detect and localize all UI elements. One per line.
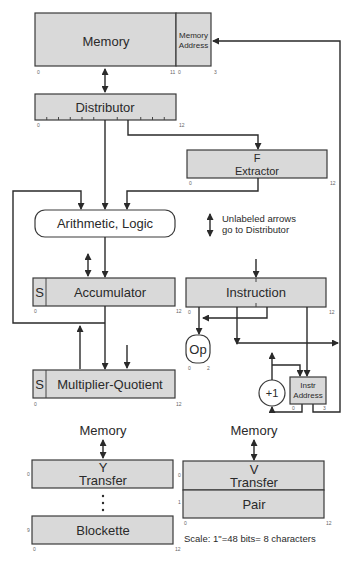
svg-text:Address: Address: [179, 41, 208, 50]
svg-text:Pair: Pair: [242, 497, 266, 512]
svg-text:Accumulator: Accumulator: [74, 285, 147, 300]
svg-text:+1: +1: [266, 387, 279, 399]
svg-text:0: 0: [189, 180, 192, 186]
incrementer-instr-address-arrow: [272, 365, 300, 376]
memory-register: Memory 0 11: [35, 13, 176, 75]
svg-text:0: 0: [178, 472, 181, 478]
svg-text:12: 12: [329, 309, 335, 315]
svg-text:0: 0: [292, 405, 295, 411]
svg-text:9: 9: [27, 527, 30, 533]
svg-text:0: 0: [184, 520, 187, 526]
svg-text:0: 0: [37, 122, 40, 128]
svg-text:12: 12: [330, 180, 336, 186]
svg-text:0: 0: [34, 401, 37, 407]
y-transfer-register: Y Transfer 0: [27, 460, 173, 488]
svg-text:Instr: Instr: [300, 381, 316, 390]
svg-text:0: 0: [178, 69, 181, 75]
svg-text:Multiplier-Quotient: Multiplier-Quotient: [57, 377, 163, 392]
svg-text:Transfer: Transfer: [79, 473, 128, 488]
svg-text:go to Distributor: go to Distributor: [222, 224, 289, 235]
svg-text:12: 12: [326, 520, 332, 526]
svg-text:Arithmetic, Logic: Arithmetic, Logic: [57, 216, 154, 231]
instr-address-register: Instr Address 0 3: [290, 377, 326, 411]
pair-register: Pair 1 0 12: [178, 490, 332, 526]
distributor-extractor-arrow: [128, 120, 258, 149]
incrementer: +1: [259, 380, 285, 406]
arithmetic-logic-unit: Arithmetic, Logic: [35, 210, 175, 237]
blockette-register: Blockette 9 0 12: [27, 516, 181, 552]
svg-text:1: 1: [178, 499, 181, 505]
svg-text:12: 12: [175, 546, 181, 552]
svg-text:Extractor: Extractor: [235, 165, 279, 177]
svg-text:Distributor: Distributor: [75, 100, 135, 115]
svg-text:F: F: [254, 152, 261, 164]
svg-text:S: S: [35, 377, 44, 392]
svg-text:Op: Op: [189, 342, 206, 357]
memory-label: Memory: [83, 34, 130, 49]
svg-text:0: 0: [37, 69, 40, 75]
distributor-register: Distributor 0 12: [35, 94, 185, 128]
accumulator-register: S Accumulator 0 12: [33, 278, 182, 314]
memory-address-register: Memory Address 0 3: [176, 13, 217, 75]
svg-text:12: 12: [179, 122, 185, 128]
scale-note: Scale: 1"=48 bits= 8 characters: [184, 533, 316, 544]
svg-text:12: 12: [176, 401, 182, 407]
computer-block-diagram: Memory 0 11 Memory Address 0 3 Distribut…: [0, 0, 350, 568]
svg-text:Address: Address: [293, 391, 322, 400]
svg-text:0: 0: [27, 471, 30, 477]
instruction-register: Instruction 0 12: [186, 278, 335, 315]
op-register: Op 0 2: [186, 335, 210, 371]
extractor-arithmetic-arrow: [127, 178, 258, 209]
svg-text:0: 0: [34, 308, 37, 314]
ellipsis-dots: [102, 495, 104, 511]
multiplier-quotient-register: S Multiplier-Quotient 0 12: [33, 370, 182, 407]
v-transfer-register: V Transfer 0: [178, 461, 324, 490]
svg-text:Unlabeled arrows: Unlabeled arrows: [222, 213, 296, 224]
svg-text:0: 0: [33, 546, 36, 552]
svg-text:2: 2: [207, 365, 210, 371]
svg-text:0: 0: [188, 309, 191, 315]
svg-text:S: S: [35, 285, 44, 300]
svg-text:Instruction: Instruction: [226, 285, 286, 300]
f-extractor-register: F Extractor 0 12: [187, 150, 336, 186]
svg-text:0: 0: [188, 365, 191, 371]
svg-text:12: 12: [176, 308, 182, 314]
svg-text:Blockette: Blockette: [76, 523, 129, 538]
y-memory-label: Memory: [80, 423, 127, 438]
svg-text:Transfer: Transfer: [230, 475, 279, 490]
v-memory-label: Memory: [231, 423, 278, 438]
svg-text:3: 3: [323, 405, 326, 411]
svg-text:Memory: Memory: [179, 31, 208, 40]
svg-text:3: 3: [214, 69, 217, 75]
instruction-op-merge-arrow: [203, 307, 267, 318]
legend: Unlabeled arrows go to Distributor: [210, 213, 296, 236]
svg-text:11: 11: [170, 69, 175, 75]
